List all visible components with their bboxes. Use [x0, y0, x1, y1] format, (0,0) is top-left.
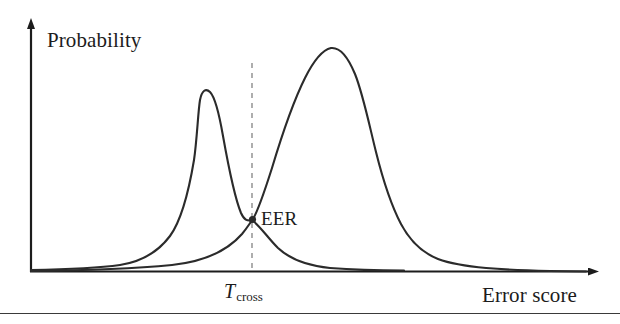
x-axis-label: Error score	[482, 283, 577, 308]
bottom-horizontal-rule	[0, 313, 620, 314]
threshold-subscript: cross	[236, 289, 263, 304]
threshold-symbol: T	[224, 280, 235, 302]
y-axis-label: Probability	[47, 28, 141, 53]
eer-label: EER	[261, 208, 298, 230]
threshold-label: Tcross	[224, 280, 262, 303]
impostor-distribution-curve	[31, 90, 404, 270]
eer-intersection-marker	[249, 216, 256, 223]
genuine-distribution-curve	[31, 48, 586, 272]
eer-distribution-figure: Probability Error score EER Tcross	[0, 0, 620, 324]
